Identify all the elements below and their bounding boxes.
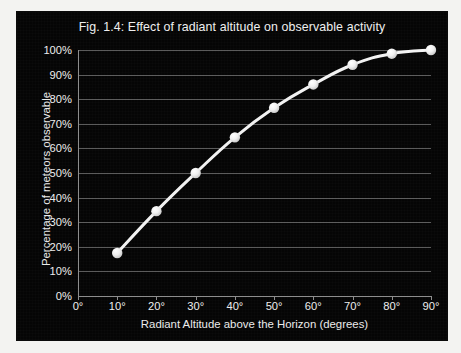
x-tick-label: 0° bbox=[73, 300, 84, 312]
x-tick-label: 10° bbox=[109, 300, 126, 312]
x-axis-title: Radiant Altitude above the Horizon (degr… bbox=[78, 318, 431, 330]
x-tick-label: 50° bbox=[266, 300, 283, 312]
chart-title: Fig. 1.4: Effect of radiant altitude on … bbox=[17, 20, 447, 34]
data-point-marker bbox=[151, 206, 161, 216]
y-tick-label: 0% bbox=[56, 290, 72, 302]
y-tick-label: 20% bbox=[50, 241, 72, 253]
data-point-marker bbox=[190, 168, 200, 178]
figure-root: Fig. 1.4: Effect of radiant altitude on … bbox=[0, 0, 461, 353]
series-markers bbox=[112, 45, 436, 258]
y-tick-label: 100% bbox=[43, 44, 72, 56]
plot-area: 0%10%20%30%40%50%60%70%80%90%100% 0°10°2… bbox=[78, 50, 431, 296]
y-tick-label: 60% bbox=[50, 142, 72, 154]
x-tick-label: 70° bbox=[344, 300, 361, 312]
y-tick-label: 10% bbox=[50, 265, 72, 277]
y-tick-label: 30% bbox=[50, 216, 72, 228]
x-tick-label: 40° bbox=[226, 300, 243, 312]
x-tick-label: 30° bbox=[187, 300, 204, 312]
x-tick-label: 60° bbox=[305, 300, 322, 312]
data-point-marker bbox=[426, 45, 436, 55]
y-tick-label: 90% bbox=[50, 69, 72, 81]
x-axis-line bbox=[78, 296, 431, 297]
data-point-marker bbox=[308, 79, 318, 89]
x-tick-label: 80° bbox=[383, 300, 400, 312]
data-point-marker bbox=[387, 48, 397, 58]
series-path bbox=[117, 50, 431, 253]
chart-panel: Fig. 1.4: Effect of radiant altitude on … bbox=[17, 12, 447, 340]
data-point-marker bbox=[112, 248, 122, 258]
y-tick-label: 80% bbox=[50, 93, 72, 105]
y-axis-title: Percentage of meteors observable bbox=[40, 56, 52, 302]
data-point-marker bbox=[347, 60, 357, 70]
series-line-observable-percentage bbox=[78, 50, 431, 296]
y-tick-label: 50% bbox=[50, 167, 72, 179]
x-tick-label: 20° bbox=[148, 300, 165, 312]
y-tick-label: 70% bbox=[50, 118, 72, 130]
x-tick-label: 90° bbox=[423, 300, 440, 312]
data-point-marker bbox=[269, 103, 279, 113]
y-tick-label: 40% bbox=[50, 192, 72, 204]
data-point-marker bbox=[230, 132, 240, 142]
